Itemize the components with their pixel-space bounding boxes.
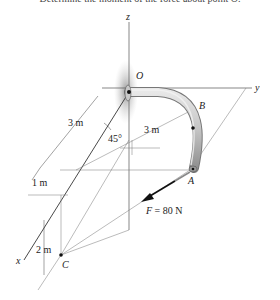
angle-45-label: 45° <box>108 133 122 144</box>
force-value: 80 N <box>163 205 183 216</box>
force-arrow <box>141 172 190 202</box>
dimension-2m: 2 m <box>36 244 52 255</box>
point-A-label: A <box>187 175 195 186</box>
point-B-marker <box>191 126 195 130</box>
force-label: F = 80 N <box>145 205 182 216</box>
point-B-label: B <box>199 100 205 111</box>
pipe-support-O <box>125 85 131 101</box>
curved-pipe <box>129 90 198 168</box>
point-C-marker <box>59 253 63 257</box>
x-axis-label: x <box>15 255 21 266</box>
point-O-label: O <box>136 70 143 81</box>
point-C-label: C <box>62 259 69 270</box>
dimension-1m: 1 m <box>32 177 48 188</box>
statics-diagram: z y x O B A C 3 m 3 m 1 m 2 m 45° F = 80… <box>0 0 280 300</box>
point-A-end <box>189 166 197 172</box>
y-axis-label: y <box>254 82 260 93</box>
dimension-3m-y: 3 m <box>144 124 160 135</box>
force-equals: = <box>152 205 163 216</box>
dimension-3m-x: 3 m <box>68 117 84 128</box>
z-axis-label: z <box>125 11 130 22</box>
construction-lines <box>28 88 246 290</box>
